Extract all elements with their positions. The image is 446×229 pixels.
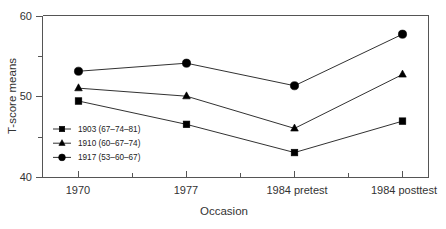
data-point <box>291 149 298 156</box>
data-point <box>399 118 406 125</box>
x-tick-label-1970: 1970 <box>66 184 90 196</box>
y-tick-label-40: 40 <box>20 171 32 183</box>
data-point <box>182 59 190 67</box>
line-chart: 60 50 40 T-score means 1970 1977 1984 pr… <box>0 0 446 229</box>
x-tick-label-1984-pretest: 1984 pretest <box>266 184 327 196</box>
data-point <box>75 84 83 91</box>
data-point <box>75 98 82 105</box>
data-point <box>399 70 407 77</box>
x-tick-label-1977: 1977 <box>174 184 198 196</box>
legend-marker-triangle <box>59 140 65 146</box>
legend-item: 1903 (67–74–81) <box>53 125 141 134</box>
legend-label: 1910 (60–67–74) <box>78 139 141 148</box>
data-point <box>398 30 406 38</box>
data-point <box>290 82 298 90</box>
series-layer <box>74 30 406 156</box>
y-tick-label-60: 60 <box>20 10 32 22</box>
y-axis-ticks <box>36 17 43 178</box>
x-axis-title: Occasion <box>200 205 248 217</box>
legend-label: 1903 (67–74–81) <box>78 125 141 134</box>
data-point <box>183 121 190 128</box>
data-point <box>74 67 82 75</box>
x-axis-tick-labels: 1970 1977 1984 pretest 1984 posttest <box>66 184 437 196</box>
series-2 <box>75 70 407 131</box>
x-axis-ticks <box>79 171 403 178</box>
y-axis-title: T-score means <box>6 58 18 134</box>
data-point <box>183 92 191 99</box>
series-line <box>79 74 403 128</box>
series-line <box>79 34 403 86</box>
y-tick-label-50: 50 <box>20 90 32 102</box>
series-3 <box>74 30 406 90</box>
legend-label: 1917 (53–60–67) <box>78 153 141 162</box>
y-axis-tick-labels: 60 50 40 <box>20 10 32 183</box>
legend-marker-square <box>59 126 64 131</box>
legend-marker-circle <box>59 154 66 161</box>
chart-figure: 60 50 40 T-score means 1970 1977 1984 pr… <box>0 0 446 229</box>
legend-item: 1910 (60–67–74) <box>53 139 141 148</box>
chart-legend: 1903 (67–74–81)1910 (60–67–74)1917 (53–6… <box>53 125 141 162</box>
x-tick-label-1984-posttest: 1984 posttest <box>371 184 437 196</box>
legend-item: 1917 (53–60–67) <box>53 153 141 162</box>
